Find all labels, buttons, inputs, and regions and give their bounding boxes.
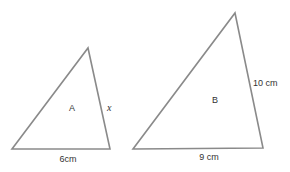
triangle-b-label: B <box>212 95 218 105</box>
triangle-a-outline <box>12 48 110 149</box>
triangle-b-right-side-label: 10 cm <box>253 78 278 88</box>
triangle-b: B 10 cm 9 cm <box>133 13 278 162</box>
triangle-a-base-label: 6cm <box>59 154 76 164</box>
triangle-a: A x 6cm <box>12 48 112 164</box>
similar-triangles-diagram: A x 6cm B 10 cm 9 cm <box>0 0 290 172</box>
triangle-b-outline <box>133 13 263 149</box>
triangle-b-base-label: 9 cm <box>199 152 219 162</box>
triangle-a-side-x-label: x <box>106 102 112 113</box>
triangle-a-label: A <box>69 103 75 113</box>
